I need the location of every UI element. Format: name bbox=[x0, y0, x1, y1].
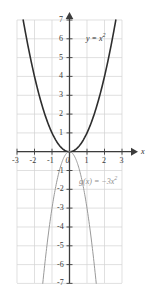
y-tick-label--3: -3 bbox=[57, 204, 64, 212]
curve-label-g-exponent: 2 bbox=[114, 175, 117, 181]
y-tick-label-1: 1 bbox=[59, 129, 63, 137]
curve-label-f-text: y = x bbox=[86, 34, 103, 43]
graph-figure: -3 -2 -1 0 1 2 3 7 6 5 4 3 2 1 -1 -2 -3 … bbox=[0, 0, 153, 295]
curve-label-g-of-x: g(x) = −3x2 bbox=[79, 174, 117, 186]
y-tick-label-7: 7 bbox=[59, 16, 63, 24]
y-axis bbox=[66, 12, 74, 283]
curve-label-g-text: g(x) = −3x bbox=[79, 177, 114, 186]
x-tick-label-0: 0 bbox=[66, 157, 70, 165]
y-tick-label--4: -4 bbox=[57, 223, 64, 231]
x-axis bbox=[17, 148, 138, 156]
curve-label-f-exponent: 2 bbox=[103, 32, 106, 38]
x-axis-label: x bbox=[141, 147, 145, 156]
x-tick-label--3: -3 bbox=[12, 157, 19, 165]
y-tick-label--2: -2 bbox=[57, 185, 64, 193]
y-tick-label-5: 5 bbox=[59, 54, 63, 62]
x-tick-label--2: -2 bbox=[30, 157, 37, 165]
y-tick-label--5: -5 bbox=[57, 242, 64, 250]
y-tick-label-3: 3 bbox=[59, 91, 63, 99]
y-tick-label--1: -1 bbox=[57, 167, 64, 175]
coordinate-plane-svg bbox=[0, 0, 153, 295]
x-tick-label-3: 3 bbox=[120, 157, 124, 165]
y-tick-label--6: -6 bbox=[57, 261, 64, 269]
y-tick-label-6: 6 bbox=[59, 35, 63, 43]
x-tick-label--1: -1 bbox=[47, 157, 54, 165]
y-tick-label--7: -7 bbox=[57, 279, 64, 287]
x-tick-label-1: 1 bbox=[85, 157, 89, 165]
y-tick-label-4: 4 bbox=[59, 72, 63, 80]
x-tick-label-2: 2 bbox=[102, 157, 106, 165]
y-tick-label-2: 2 bbox=[59, 110, 63, 118]
curve-label-y-equals-x-squared: y = x2 bbox=[86, 31, 106, 43]
